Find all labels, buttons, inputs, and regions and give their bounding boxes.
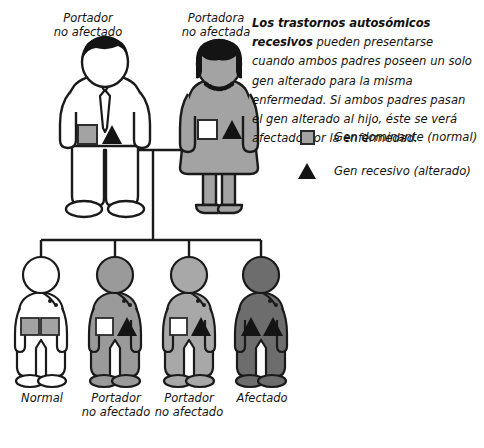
legend-item-dominant: Gen dominante (normal)	[292, 120, 482, 154]
child-figure-3	[163, 257, 215, 387]
legend: Gen dominante (normal) Gen recesivo (alt…	[292, 120, 482, 188]
legend-item-recessive: Gen recesivo (alterado)	[292, 154, 482, 188]
child-figure-2	[89, 257, 141, 387]
mother-figure	[180, 39, 258, 213]
legend-label-recessive: Gen recesivo (alterado)	[322, 164, 471, 178]
father-label: Portador no afectado	[28, 12, 148, 39]
triangle-black-icon	[292, 163, 322, 179]
legend-label-dominant: Gen dominante (normal)	[322, 130, 477, 144]
child-figure-4	[235, 257, 287, 387]
child-label-2: Portador no afectado	[77, 392, 155, 419]
child-label-4: Afectado	[224, 392, 300, 406]
child-figure-1	[15, 257, 67, 387]
father-figure	[60, 37, 150, 217]
child-label-1: Normal	[4, 392, 80, 406]
square-gray-icon	[292, 130, 322, 145]
child-label-3: Portador no afectado	[150, 392, 228, 419]
